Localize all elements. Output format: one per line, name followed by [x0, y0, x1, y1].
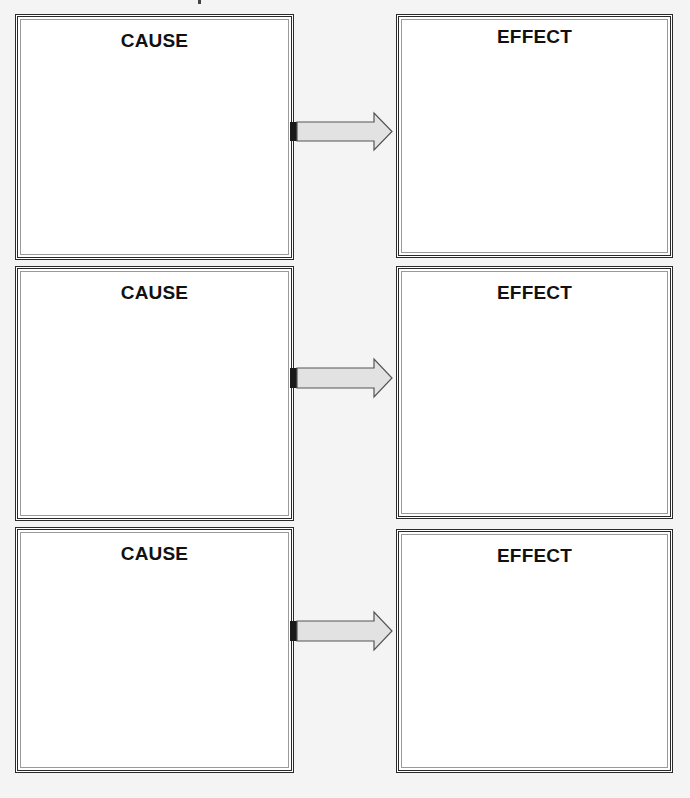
effect-title-1: EFFECT — [399, 26, 670, 48]
arrow-right-icon — [288, 110, 396, 154]
effect-box-3[interactable]: EFFECT — [396, 529, 673, 773]
arrow-right-icon — [288, 356, 396, 400]
cause-title-2: CAUSE — [18, 282, 291, 304]
cause-title-1: CAUSE — [18, 30, 291, 52]
cause-box-2[interactable]: CAUSE — [15, 266, 294, 521]
cause-box-3[interactable]: CAUSE — [15, 527, 294, 773]
cropped-header-mark — [198, 0, 201, 4]
effect-title-3: EFFECT — [399, 545, 670, 567]
effect-box-2[interactable]: EFFECT — [396, 266, 673, 519]
arrow-right-icon — [288, 609, 396, 653]
effect-box-1[interactable]: EFFECT — [396, 14, 673, 258]
cause-box-1[interactable]: CAUSE — [15, 14, 294, 260]
effect-title-2: EFFECT — [399, 282, 670, 304]
cause-title-3: CAUSE — [18, 543, 291, 565]
